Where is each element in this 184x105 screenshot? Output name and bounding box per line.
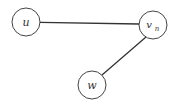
node-vn: v n xyxy=(139,11,167,39)
graph-diagram: u v n w xyxy=(0,0,184,105)
node-vn-label: v xyxy=(146,19,152,30)
node-vn-subscript: n xyxy=(155,25,160,33)
node-u: u xyxy=(12,8,40,36)
edge-vn-w xyxy=(102,37,146,75)
edge-u-vn xyxy=(40,22,139,24)
node-w-label: w xyxy=(87,79,97,92)
node-w: w xyxy=(78,71,106,99)
node-u-label: u xyxy=(22,16,29,29)
